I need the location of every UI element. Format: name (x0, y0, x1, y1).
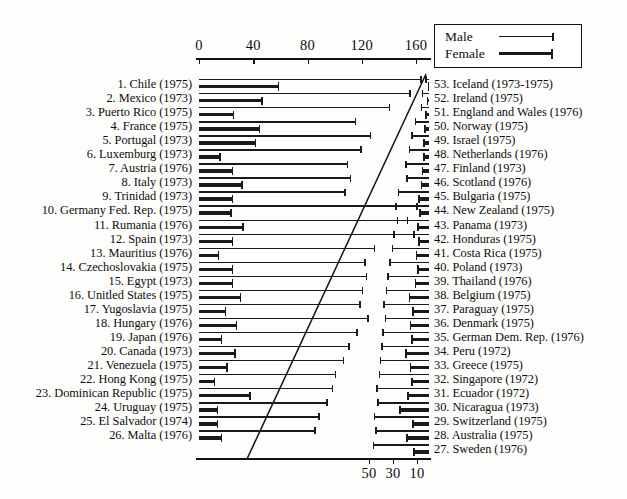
bottom-axis-tick (393, 460, 394, 465)
bottom-axis-tick-label: 10 (410, 466, 425, 480)
female-bar-cap (407, 392, 409, 401)
female-bar (413, 450, 429, 453)
legend-box: Male Female (434, 24, 582, 68)
female-bar-cap (242, 223, 244, 232)
male-bar-cap (366, 273, 368, 280)
female-bar-cap (230, 209, 232, 218)
left-row-label: 1. Chile (1975) (117, 78, 192, 90)
left-row-label: 24. Uruguay (1975) (95, 401, 192, 413)
female-bar-cap (413, 448, 415, 457)
male-bar-cap (367, 315, 369, 322)
male-bar (199, 318, 367, 319)
top-axis-tick-label: 0 (195, 38, 202, 52)
left-row-label: 11. Rumania (1976) (94, 218, 192, 230)
male-bar (415, 121, 429, 122)
male-bar-cap (420, 76, 422, 83)
left-row-label: 4. France (1975) (111, 120, 192, 132)
right-row-label: 50. Norway (1975) (434, 120, 528, 132)
bottom-axis-tick (369, 460, 370, 465)
right-row-label: 30. Nicaragua (1973) (434, 401, 539, 413)
male-bar-cap (360, 146, 362, 153)
female-bar-cap (424, 125, 426, 134)
legend-sample-female-bar (499, 52, 553, 55)
female-bar (199, 99, 261, 102)
male-bar (199, 304, 359, 305)
right-row-label: 28. Australia (1975) (434, 429, 532, 441)
female-bar-cap (411, 378, 413, 387)
male-bar-cap (389, 259, 391, 266)
female-bar (199, 183, 241, 186)
left-row-label: 2. Mexico (1973) (106, 92, 192, 104)
male-bar-cap (343, 357, 345, 364)
female-bar (199, 366, 226, 369)
female-bar-cap (399, 406, 401, 415)
male-bar-cap (395, 203, 397, 210)
male-bar (199, 163, 347, 164)
female-bar (199, 394, 249, 397)
male-bar (386, 290, 429, 291)
male-bar (387, 276, 429, 277)
female-bar (399, 408, 429, 411)
male-bar (199, 332, 356, 333)
right-row-label: 32. Singapore (1972) (434, 373, 538, 385)
left-row-label: 14. Czechoslovakia (1975) (60, 260, 192, 272)
male-bar (199, 388, 332, 389)
right-row-label: 43. Panama (1973) (434, 218, 527, 230)
female-bar (406, 436, 429, 439)
right-row-label: 49. Israel (1975) (434, 134, 515, 146)
right-row-label: 39. Thailand (1976) (434, 274, 532, 286)
female-bar (199, 338, 221, 341)
top-axis-tick (362, 60, 363, 65)
male-bar (373, 444, 429, 445)
top-axis-tick-label: 80 (300, 38, 315, 52)
female-bar-cap (225, 307, 227, 316)
left-row-label: 10. Germany Fed. Rep. (1975) (42, 204, 192, 216)
left-row-label: 25. El Salvador (1974) (80, 415, 192, 427)
legend-sample-female-cap (551, 49, 553, 59)
right-row-label: 35. German Dem. Rep. (1976) (434, 331, 584, 343)
left-row-label: 26. Malta (1976) (109, 429, 192, 441)
female-bar-cap (417, 265, 419, 274)
left-row-label: 7. Austria (1976) (109, 162, 192, 174)
male-bar (377, 402, 429, 403)
female-bar-cap (409, 293, 411, 302)
bottom-axis-tick-label: 30 (386, 466, 401, 480)
left-row-label: 9. Trinidad (1973) (102, 190, 192, 202)
right-row-label: 41. Costa Rica (1975) (434, 246, 542, 258)
male-bar (199, 360, 343, 361)
female-bar (416, 254, 429, 257)
female-bar (417, 226, 429, 229)
female-bar-cap (259, 125, 261, 134)
male-bar (385, 318, 429, 319)
left-row-label: 12. Spain (1973) (110, 232, 192, 244)
female-bar-cap (425, 111, 427, 120)
female-bar (410, 324, 429, 327)
left-row-label: 16. Unitled States (1975) (69, 289, 192, 301)
legend-row-male: Male (445, 30, 473, 44)
male-bar-cap (392, 245, 394, 252)
legend-sample-male-bar (499, 36, 553, 37)
female-bar (405, 352, 429, 355)
female-bar (199, 141, 255, 144)
female-bar (199, 310, 225, 313)
right-row-label: 51. England and Wales (1976) (434, 106, 582, 118)
female-bar-cap (410, 321, 412, 330)
female-bar-cap (255, 139, 257, 148)
female-bar (415, 282, 429, 285)
female-bar-cap (421, 181, 423, 190)
female-bar (199, 155, 219, 158)
female-bar (417, 268, 429, 271)
right-row-label: 45. Bulgaria (1975) (434, 190, 530, 202)
left-row-label: 5. Portugal (1973) (102, 134, 192, 146)
right-row-label: 37. Paraguay (1975) (434, 303, 534, 315)
female-bar-cap (412, 307, 414, 316)
female-bar-cap (417, 223, 419, 232)
right-row-label: 44. New Zealand (1975) (434, 204, 554, 216)
male-bar-cap (393, 231, 395, 238)
male-bar-cap (386, 287, 388, 294)
top-axis-tick (308, 60, 309, 65)
male-bar (199, 430, 314, 431)
male-bar (374, 416, 429, 417)
male-bar (406, 177, 429, 178)
female-bar-cap (241, 181, 243, 190)
